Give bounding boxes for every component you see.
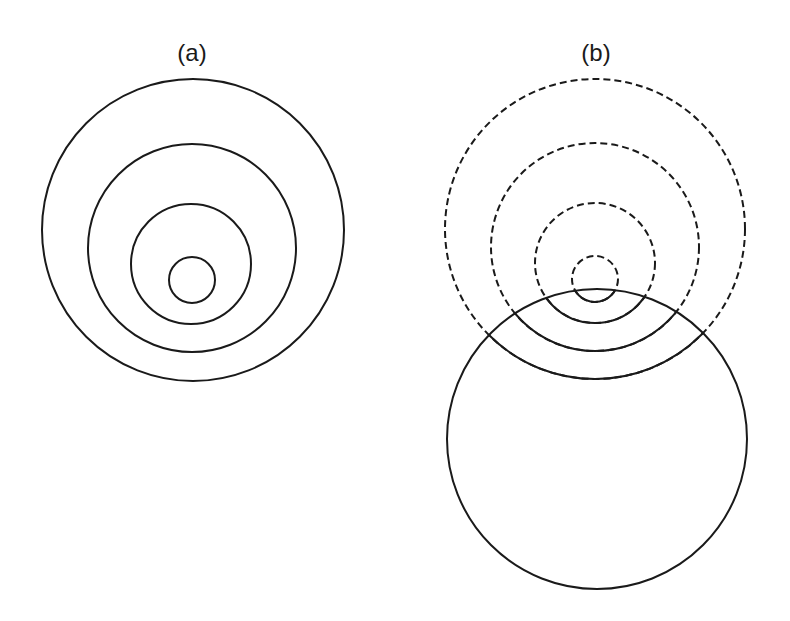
diagram-canvas: (a) (b) xyxy=(0,0,790,621)
panel-b-dashed-circle-2 xyxy=(491,143,699,351)
panel-b: (b) xyxy=(445,39,747,589)
panel-a-concentric-circles xyxy=(42,79,344,381)
panel-b-label: (b) xyxy=(581,39,610,66)
panel-a: (a) xyxy=(42,39,344,381)
panel-b-solid-arc-circle-2 xyxy=(491,143,699,351)
panel-a-circle-1 xyxy=(42,79,344,381)
panel-a-label: (a) xyxy=(177,39,206,66)
panel-a-circle-2 xyxy=(88,144,296,352)
panel-a-circle-4 xyxy=(169,257,215,303)
panel-a-circle-3 xyxy=(131,204,251,324)
